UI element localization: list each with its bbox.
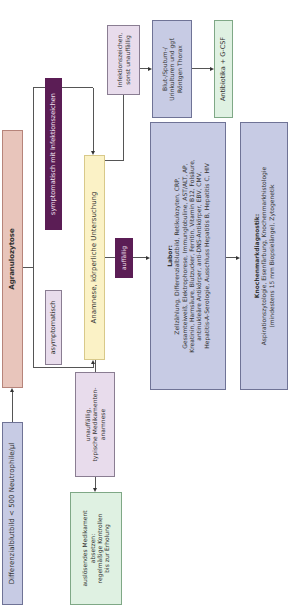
connector [33,88,34,368]
node-differenzialblutbild: Differenzialblutbild < 500 Neutrophile/µ… [2,422,23,605]
node-text: Blut-/Sputum-/ [161,47,168,91]
node-text: regelmäßige Kontrollen [96,514,103,584]
node-text: Zellzählung, Differenzialblutbild, Retik… [173,177,180,334]
node-knochenmarkdiagnostik: Knochenmarkdiagnostik: Aspirationszytolo… [240,122,288,390]
connector [123,95,124,161]
arrow-head-icon [10,388,14,392]
node-text: Anamnese, körperliche Untersuchung [90,192,99,324]
node-text: Differenzialblutbild < 500 Neutrophile/µ… [8,443,17,585]
node-text: absetzen: [89,534,96,563]
node-text: Urinkulturen und ggf. [168,37,175,101]
node-medikament-absetzen: auslösendes Medikament absetzen: regelmä… [70,492,122,605]
connector [192,68,210,69]
node-text: antinukleäre Antikörper, anti-DNS-Antikö… [195,171,202,340]
node-title: Knochenmarkdiagnostik: [253,214,260,298]
connector [226,257,236,258]
connector [33,87,93,88]
node-text: sonst unauffällig [124,35,131,85]
node-text: Röntgen Thorax [176,45,183,93]
connector [140,68,148,69]
node-text: Antibiotika + G-CSF [220,37,228,101]
node-labor: Labor: Zellzählung, Differenzialblutbild… [150,122,226,390]
node-text: asymptomatisch [50,301,58,355]
label-symptomatisch: symptomatisch mit Infektionszeichen [45,78,62,230]
node-infektionszeichen: Infektionszeichen, sonst unauffällig [107,25,140,95]
node-text: Infektionszeichen, [116,33,123,87]
node-text: unauffällig, [84,408,91,442]
node-text: bis zur Erholung [103,524,110,573]
node-text: Kreatinin, Harnsäure, Blutzucker, Ferrit… [188,159,195,352]
node-kulturen: Blut-/Sputum-/ Urinkulturen und ggf. Rön… [152,20,192,118]
connector [105,160,123,161]
node-text: Gesamteiweiß, Elektrophorese, Immunglobu… [181,163,188,348]
node-antibiotika: Antibiotika + G-CSF [214,20,233,118]
node-agranulozytose: Agranulozytose [2,130,23,388]
node-text: Agranulozytose [8,228,17,290]
node-text: auffällig [120,246,127,270]
node-text: anamnese [99,409,106,440]
connector [93,364,94,368]
node-text: auslösendes Medikament [81,510,88,586]
label-asymptomatisch: asymptomatisch [45,290,62,365]
node-text: Aspirationszytologie, Eisenfärbung, Knoc… [260,167,267,345]
node-text: Hepatitis-A-Serologie, Ausschluss Hepati… [203,163,210,349]
node-title: Labor: [166,245,173,267]
node-text: (mindestens 15 mm Biopsielänge), Zytogen… [268,184,275,327]
connector [95,360,96,372]
connector [95,477,96,488]
node-text: symptomatisch mit Infektionszeichen [50,93,58,215]
connector [12,392,13,422]
flowchart-agranulozytose: Differenzialblutbild < 500 Neutrophile/µ… [0,0,292,608]
connector [33,367,93,368]
node-unauffaellig: unauffällig, typische Medikamenten- anam… [75,372,115,477]
connector [93,88,94,151]
node-anamnese: Anamnese, körperliche Untersuchung [84,155,105,360]
node-text: typische Medikamenten- [91,388,98,462]
label-auffaellig: auffällig [115,238,133,278]
